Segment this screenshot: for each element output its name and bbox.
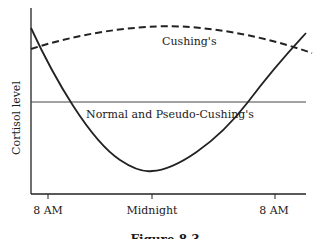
normal-curve [31,28,306,171]
x-label-8am-left: 8 AM [33,204,63,217]
cortisol-chart: Cushing's Normal and Pseudo-Cushing's Co… [0,0,322,239]
x-label-midnight: Midnight [127,204,179,217]
cushings-label: Cushing's [162,35,217,48]
normal-label: Normal and Pseudo-Cushing's [86,108,254,121]
figure-caption: Figure 8.3 [130,233,199,239]
x-label-8am-right: 8 AM [259,204,289,217]
y-axis-label: Cortisol level [10,81,23,155]
